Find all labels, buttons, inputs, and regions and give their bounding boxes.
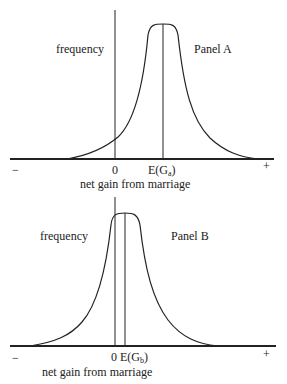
panel-b-mean-label: E(Gb) [120,350,148,365]
panel-a-plus-label: + [263,159,270,173]
panel-b-title: Panel B [171,229,209,243]
panel-a: frequency Panel A − + 0 E(Ga) net gain f… [10,10,274,191]
panel-a-y-label: frequency [56,42,104,56]
panel-b-zero-label: 0 [111,350,117,364]
panel-b-y-label: frequency [40,229,88,243]
panel-b: frequency Panel B − + 0 E(Gb) net gain f… [10,197,276,379]
panel-a-title: Panel A [194,42,232,56]
panel-a-x-label: net gain from marriage [80,177,190,191]
panel-a-minus-label: − [12,163,19,177]
panel-b-plus-label: + [263,347,270,361]
panel-b-minus-label: − [12,351,19,365]
panel-a-mean-label: E(Ga) [148,163,176,178]
panel-b-x-label: net gain from marriage [42,365,152,379]
diagram: frequency Panel A − + 0 E(Ga) net gain f… [0,0,287,384]
panel-a-zero-label: 0 [112,163,118,177]
